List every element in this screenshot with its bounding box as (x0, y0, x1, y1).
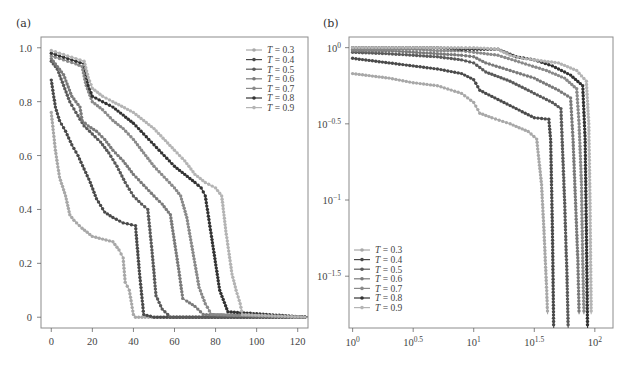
figure-canvas: 02040608010012000.20.40.60.81.0T = 0.3T … (0, 0, 632, 367)
legend-entry: T = 0.9 (267, 103, 295, 113)
tick-label: 101.5 (524, 335, 544, 348)
tick-label: 101 (467, 335, 482, 348)
legend-entry: T = 0.4 (375, 255, 403, 265)
legend: T = 0.3T = 0.4T = 0.5T = 0.6T = 0.7T = 0… (246, 45, 295, 113)
x-tick-label: 0 (49, 336, 54, 347)
x-tick-label: 40 (128, 336, 139, 347)
tick-label: 10−1 (323, 193, 342, 206)
tick-label: 10−1.5 (317, 269, 341, 282)
x-tick-label: 120 (290, 336, 306, 347)
legend-entry: T = 0.7 (267, 84, 295, 94)
legend: T = 0.3T = 0.4T = 0.5T = 0.6T = 0.7T = 0… (354, 245, 403, 313)
legend-entry: T = 0.7 (375, 284, 403, 294)
legend-entry: T = 0.5 (375, 265, 403, 275)
legend-entry: T = 0.9 (375, 303, 403, 313)
x-tick-label: 80 (210, 336, 221, 347)
chart-b: 100100.5101101.510210−1.510−110−0.5100T … (317, 37, 613, 348)
y-tick-label: 1.0 (19, 43, 32, 54)
legend-entry: T = 0.8 (267, 93, 295, 103)
chart-a: 02040608010012000.20.40.60.81.0T = 0.3T … (19, 37, 308, 347)
legend-entry: T = 0.3 (375, 245, 403, 255)
legend-entry: T = 0.6 (267, 74, 295, 84)
legend-entry: T = 0.6 (375, 274, 403, 284)
tick-label: 100.5 (403, 335, 423, 348)
tick-label: 102 (588, 335, 603, 348)
tick-label: 100 (346, 335, 361, 348)
legend-entry: T = 0.3 (267, 45, 295, 55)
x-tick-label: 20 (87, 336, 98, 347)
legend-entry: T = 0.5 (267, 65, 295, 75)
y-tick-label: 0.8 (19, 97, 32, 108)
y-tick-label: 0.6 (19, 151, 32, 162)
y-tick-label: 0 (27, 312, 32, 323)
series-line (51, 112, 308, 317)
y-tick-label: 0.4 (19, 204, 33, 215)
x-tick-label: 60 (169, 336, 180, 347)
x-tick-label: 100 (249, 336, 265, 347)
y-tick-label: 0.2 (19, 258, 32, 269)
tick-label: 100 (327, 41, 342, 54)
tick-label: 10−0.5 (317, 117, 341, 130)
legend-entry: T = 0.4 (267, 55, 295, 65)
legend-entry: T = 0.8 (375, 293, 403, 303)
